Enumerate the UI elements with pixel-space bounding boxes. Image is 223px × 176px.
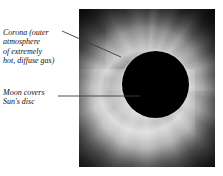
annotation-label-corona: Corona (outer atmosphere of extremely ho…	[3, 28, 69, 65]
moon-silhouette-disc	[122, 51, 189, 118]
total-solar-eclipse-photograph	[79, 9, 215, 167]
figure-title: TOTAL SOLAR ECLIPSE	[79, 0, 215, 2]
eclipse-figure: TOTAL SOLAR ECLIPSE Corona (outer atmosp…	[0, 0, 223, 176]
annotation-label-moon: Moon covers Sun's disc	[3, 88, 63, 107]
